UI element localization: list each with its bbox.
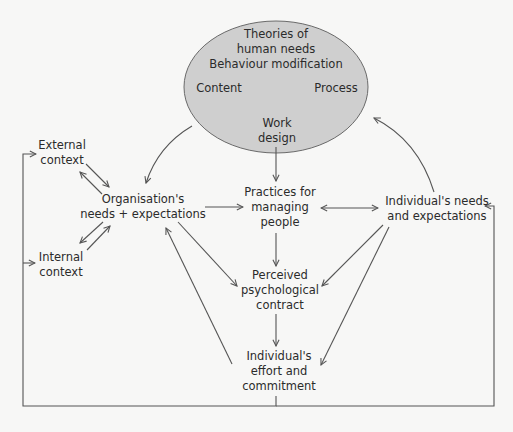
node-psychological-contract: Perceived psychological contract: [241, 268, 319, 313]
contract-line3: contract: [241, 298, 319, 313]
ellipse-title-line3: Behaviour modification: [209, 57, 342, 72]
arrow-external-to-organisation: [86, 164, 109, 187]
design-label: design: [258, 131, 296, 146]
arrow-individual-to-contract: [322, 225, 383, 286]
process-label: Process: [314, 81, 358, 96]
internal-line1: Internal: [39, 250, 83, 265]
arrow-organisation-to-contract: [178, 222, 237, 286]
ellipse-content-label: Content: [196, 81, 242, 96]
organisation-line1: Organisation's: [80, 192, 206, 207]
arrow-individual-to-effort: [321, 227, 389, 365]
ellipse-work-design: Work design: [258, 116, 296, 146]
node-external-context: External context: [38, 138, 86, 168]
practices-line3: people: [244, 215, 315, 230]
individual-needs-line1: Individual's needs: [385, 194, 489, 209]
ellipse-title: Theories of human needs Behaviour modifi…: [209, 27, 342, 72]
arrow-ellipse-to-organisation: [146, 126, 192, 183]
external-line1: External: [38, 138, 86, 153]
node-individual-needs: Individual's needs and expectations: [385, 194, 489, 224]
content-label: Content: [196, 81, 242, 96]
contract-line1: Perceived: [241, 268, 319, 283]
arrow-organisation-to-internal: [80, 222, 103, 243]
individual-needs-line2: and expectations: [385, 209, 489, 224]
practices-line2: managing: [244, 200, 315, 215]
external-line2: context: [38, 153, 86, 168]
ellipse-process-label: Process: [314, 81, 358, 96]
arrow-internal-to-organisation: [87, 226, 110, 250]
effort-line1: Individual's: [242, 349, 316, 364]
ellipse-title-line2: human needs: [209, 42, 342, 57]
arrow-effort-to-organisation: [166, 228, 232, 364]
contract-line2: psychological: [241, 283, 319, 298]
ellipse-title-line1: Theories of: [209, 27, 342, 42]
node-practices: Practices for managing people: [244, 185, 315, 230]
arrow-organisation-to-external: [80, 172, 102, 194]
effort-line3: commitment: [242, 379, 316, 394]
effort-line2: effort and: [242, 364, 316, 379]
node-organisation-needs: Organisation's needs + expectations: [80, 192, 206, 222]
organisation-line2: needs + expectations: [80, 207, 206, 222]
arrow-individual-to-ellipse: [374, 118, 434, 192]
internal-line2: context: [39, 265, 83, 280]
work-label: Work: [258, 116, 296, 131]
node-effort-commitment: Individual's effort and commitment: [242, 349, 316, 394]
node-internal-context: Internal context: [39, 250, 83, 280]
practices-line1: Practices for: [244, 185, 315, 200]
